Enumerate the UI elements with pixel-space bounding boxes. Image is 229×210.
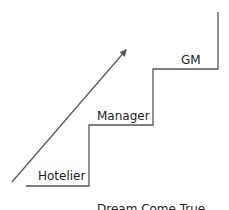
- career-staircase-diagram: [0, 0, 229, 210]
- step-label-hotelier: Hotelier: [38, 170, 85, 182]
- step-label-manager: Manager: [97, 110, 150, 122]
- diagram-caption: Dream Come True: [97, 203, 205, 210]
- staircase-line: [26, 12, 218, 186]
- step-label-gm: GM: [181, 54, 201, 66]
